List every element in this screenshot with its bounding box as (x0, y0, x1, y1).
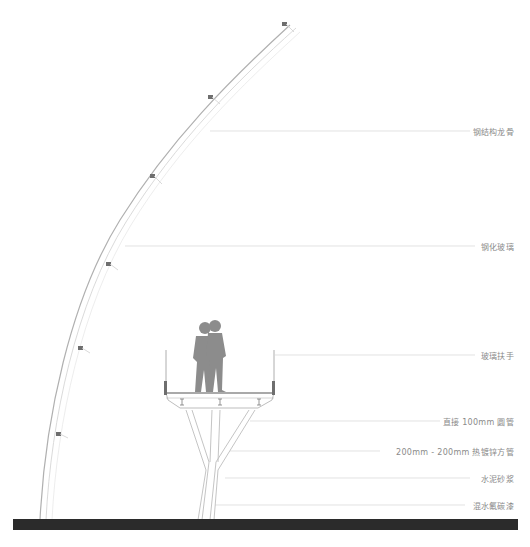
section-drawing (0, 0, 530, 547)
label-glass-handrail: 玻璃扶手 (481, 350, 514, 361)
y-support-column (186, 410, 255, 520)
label-round-tube: 直接 100mm 圆管 (443, 416, 514, 427)
label-tempered-glass: 钢化玻璃 (481, 241, 514, 252)
ground-slab (13, 519, 518, 530)
canopy-arch (40, 25, 300, 520)
keel-connectors (56, 22, 287, 436)
label-steel-keel: 钢结构龙骨 (473, 126, 515, 137)
keel-clips (60, 24, 294, 438)
label-cement-mortar: 水泥砂浆 (481, 473, 514, 484)
label-square-tube: 200mm - 200mm 热镀锌方管 (396, 446, 514, 457)
label-fluorocarbon-paint: 混水氟碳漆 (473, 500, 515, 511)
people-silhouette (193, 320, 226, 392)
